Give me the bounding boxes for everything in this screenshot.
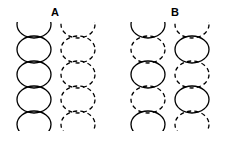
ellipse-solid [17, 36, 51, 63]
ellipse-solid [17, 111, 51, 138]
ellipse-column-b-right [175, 11, 209, 138]
ellipse-solid [175, 36, 209, 63]
ellipse-dashed [61, 36, 95, 63]
figure-canvas: A B [0, 0, 226, 141]
ellipse-group-a [17, 11, 95, 138]
ellipse-solid [131, 11, 165, 38]
ellipse-dashed [131, 86, 165, 113]
ellipse-solid [175, 86, 209, 113]
ellipse-solid [131, 111, 165, 138]
ellipse-dashed [175, 61, 209, 88]
ellipse-column-a-left [17, 11, 51, 138]
ellipse-solid [17, 61, 51, 88]
group-label-b: B [165, 7, 185, 18]
ellipse-column-a-right [61, 11, 95, 138]
ellipse-chain-diagram [0, 0, 226, 141]
group-label-a: A [45, 7, 65, 18]
ellipse-solid [131, 61, 165, 88]
ellipse-dashed [61, 61, 95, 88]
ellipse-column-b-left [131, 11, 165, 138]
ellipse-group-b [131, 11, 209, 138]
ellipse-solid [17, 86, 51, 113]
ellipse-chains-layer [17, 11, 209, 138]
ellipse-dashed [61, 11, 95, 38]
ellipse-dashed [175, 111, 209, 138]
ellipse-dashed [131, 36, 165, 63]
ellipse-dashed [61, 111, 95, 138]
ellipse-dashed [61, 86, 95, 113]
